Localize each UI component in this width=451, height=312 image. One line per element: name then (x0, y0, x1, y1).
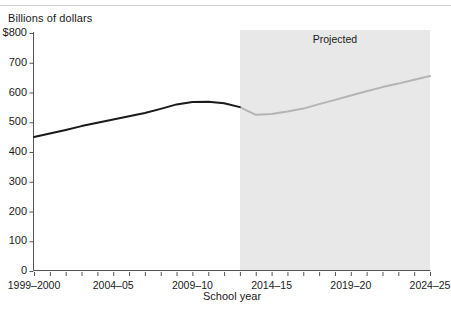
x-tick-label: 1999–2000 (0, 279, 69, 291)
y-tick-label: 300 (0, 175, 27, 187)
y-tick-label: 700 (0, 56, 27, 68)
projected-annotation-label: Projected (300, 33, 370, 45)
y-tick-label: 500 (0, 115, 27, 127)
y-tick-label: 200 (0, 205, 27, 217)
y-tick-label: 0 (0, 264, 27, 276)
chart-plot-area (0, 0, 451, 312)
y-tick-label: $800 (0, 26, 27, 38)
x-tick-label: 2024–25 (395, 279, 451, 291)
x-tick-label: 2019–20 (316, 279, 386, 291)
series-line-actual (34, 102, 240, 137)
x-axis-title: School year (197, 290, 267, 302)
y-tick-label: 100 (0, 234, 27, 246)
projected-shading-region (240, 30, 430, 271)
y-tick-label: 400 (0, 145, 27, 157)
y-tick-label: 600 (0, 86, 27, 98)
x-axis-ticks (35, 272, 431, 276)
y-axis-ticks (30, 34, 34, 272)
chart-figure: Billions of dollars $8007006005004003002… (0, 0, 451, 312)
x-tick-label: 2004–05 (78, 279, 148, 291)
